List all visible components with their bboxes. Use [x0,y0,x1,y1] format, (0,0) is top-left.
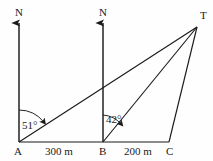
point-label-a: A [14,146,22,157]
north-label-a: N [15,7,23,18]
point-label-b: B [99,146,106,157]
point-label-c: C [166,146,173,157]
distance-label-bc: 200 m [124,146,152,157]
angle-label-a: 51° [22,120,37,131]
angle-label-b: 42° [106,114,121,125]
point-label-t: T [200,10,207,21]
diagram-canvas [0,0,213,161]
distance-label-ab: 300 m [45,146,73,157]
north-label-b: N [99,7,107,18]
bearing-diagram: N N T A B C 300 m 200 m 51° 42° [0,0,213,161]
